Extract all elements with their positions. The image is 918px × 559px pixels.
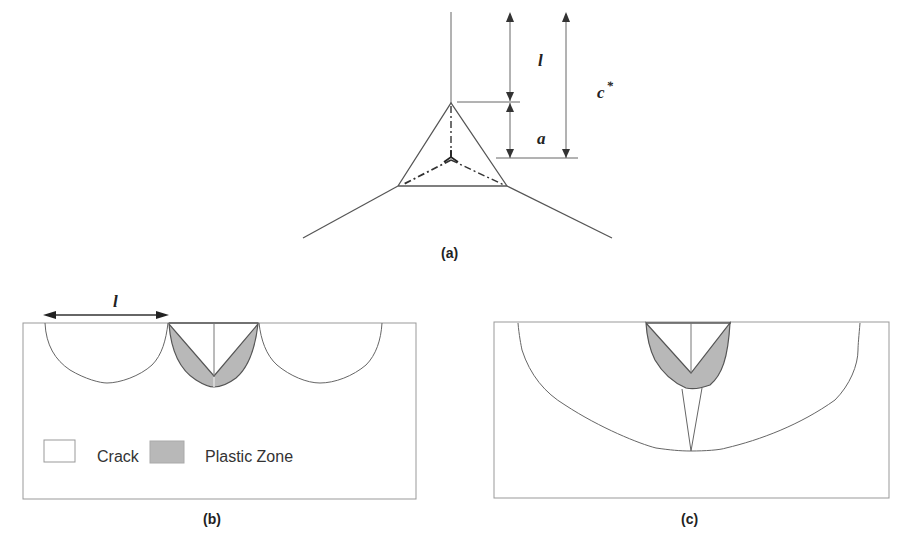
radial-crack-left bbox=[303, 186, 398, 238]
legend-swatch-crack bbox=[44, 440, 75, 462]
crack-right bbox=[259, 323, 382, 383]
arrow-down-icon bbox=[562, 149, 570, 158]
legend-swatch-plastic-zone bbox=[150, 441, 184, 463]
label-c-star: c* bbox=[597, 78, 614, 102]
caption-a: (a) bbox=[441, 245, 458, 261]
arrow-up-icon bbox=[506, 12, 514, 22]
specimen-box-b bbox=[23, 323, 416, 499]
arrow-down-icon bbox=[506, 149, 514, 158]
label-l: l bbox=[538, 51, 543, 70]
legend-label-crack: Crack bbox=[97, 448, 140, 465]
figure-canvas: l a c* (a) l Crack Plastic Zone (b) bbox=[0, 0, 918, 559]
wedge-line-left bbox=[682, 389, 691, 451]
indent-triangle bbox=[398, 103, 507, 186]
wedge-line-right bbox=[691, 388, 702, 451]
arrow-up-icon bbox=[562, 12, 570, 22]
crack-left bbox=[45, 323, 168, 383]
panel-a-indentation-diagram: l a c* (a) bbox=[303, 12, 614, 261]
panel-c-single-large-crack: (c) bbox=[494, 322, 889, 527]
legend-label-plastic-zone: Plastic Zone bbox=[205, 448, 293, 465]
arrow-left-icon bbox=[43, 311, 56, 319]
plastic-zone-c bbox=[646, 323, 730, 389]
center-dashdot-right bbox=[451, 160, 504, 185]
caption-c: (c) bbox=[681, 511, 698, 527]
caption-b: (b) bbox=[203, 511, 221, 527]
panel-b-multiple-cracks: l Crack Plastic Zone (b) bbox=[23, 292, 416, 527]
arrow-down-icon bbox=[506, 92, 514, 101]
label-l-b: l bbox=[113, 292, 118, 311]
arrow-up-icon bbox=[506, 103, 514, 112]
radial-crack-right bbox=[507, 186, 612, 238]
arrow-right-icon bbox=[156, 311, 169, 319]
label-a: a bbox=[537, 129, 546, 148]
center-dashdot-left bbox=[402, 160, 451, 185]
